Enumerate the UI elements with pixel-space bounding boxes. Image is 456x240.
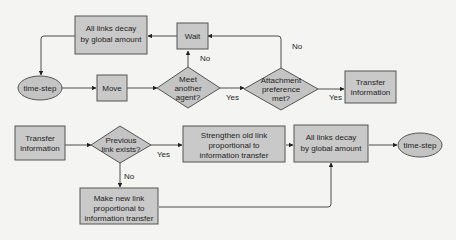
node-meet-decision[interactable]: Meet another agent? (157, 67, 220, 108)
node-newlink[interactable]: Make new link proportional to informatio… (80, 188, 158, 224)
node-bot-transfer[interactable]: Transfer information (15, 126, 65, 160)
node-strengthen-line3: information transfer (200, 151, 269, 160)
node-bot-decay-line1: All links decay (306, 133, 357, 142)
node-newlink-line1: Make new link (94, 194, 146, 203)
node-bot-timestep-label: time-step (404, 141, 437, 150)
node-meet-line1: Meet (179, 75, 198, 84)
node-top-timestep[interactable]: time-step (18, 76, 62, 100)
node-prev-decision[interactable]: Previous link exists? (91, 126, 151, 163)
node-top-transfer-line1: Transfer (356, 78, 386, 87)
node-strengthen-line1: Strengthen old link (201, 131, 268, 140)
flowchart-svg: All links decay by global amount Wait ti… (0, 0, 456, 240)
node-bot-transfer-line1: Transfer (25, 134, 55, 143)
label-attach-yes: Yes (329, 93, 342, 102)
label-meet-no: No (200, 54, 211, 63)
node-top-timestep-label: time-step (24, 84, 57, 93)
node-move[interactable]: Move (97, 75, 127, 101)
label-prev-yes: Yes (157, 150, 170, 159)
label-attach-no: No (292, 42, 303, 51)
node-top-decay-line1: All links decay (86, 24, 137, 33)
flowchart-canvas: All links decay by global amount Wait ti… (0, 0, 456, 240)
node-move-label: Move (102, 84, 122, 93)
label-prev-no: No (124, 172, 135, 181)
node-newlink-line2: proportional to (93, 204, 145, 213)
node-attach-decision[interactable]: Attachment preference met? (244, 68, 318, 110)
edge-attach-to-wait (208, 36, 281, 68)
label-meet-yes: Yes (226, 93, 239, 102)
node-newlink-line3: information transfer (85, 214, 154, 223)
node-wait-label: Wait (185, 32, 201, 41)
node-bot-decay[interactable]: All links decay by global amount (294, 125, 368, 162)
node-top-transfer-line2: information (351, 88, 391, 97)
node-attach-line2: preference (262, 85, 301, 94)
node-top-transfer[interactable]: Transfer information (345, 71, 396, 103)
edge-newlink-to-decay (159, 163, 331, 207)
node-top-decay-line2: by global amount (81, 35, 143, 44)
node-attach-line1: Attachment (261, 76, 302, 85)
node-attach-line3: met? (272, 94, 290, 103)
node-prev-line2: link exists? (101, 145, 141, 154)
edge-decay-to-timestep (41, 36, 75, 75)
node-wait[interactable]: Wait (177, 23, 208, 49)
node-top-decay[interactable]: All links decay by global amount (75, 16, 147, 54)
node-bot-timestep[interactable]: time-step (398, 133, 442, 157)
node-strengthen-line2: proportional to (208, 141, 260, 150)
node-prev-line1: Previous (105, 136, 136, 145)
node-bot-decay-line2: by global amount (301, 144, 363, 153)
node-meet-line3: agent? (176, 93, 201, 102)
node-strengthen[interactable]: Strengthen old link proportional to info… (183, 126, 285, 162)
node-meet-line2: another (174, 84, 201, 93)
node-bot-transfer-line2: information (20, 144, 60, 153)
